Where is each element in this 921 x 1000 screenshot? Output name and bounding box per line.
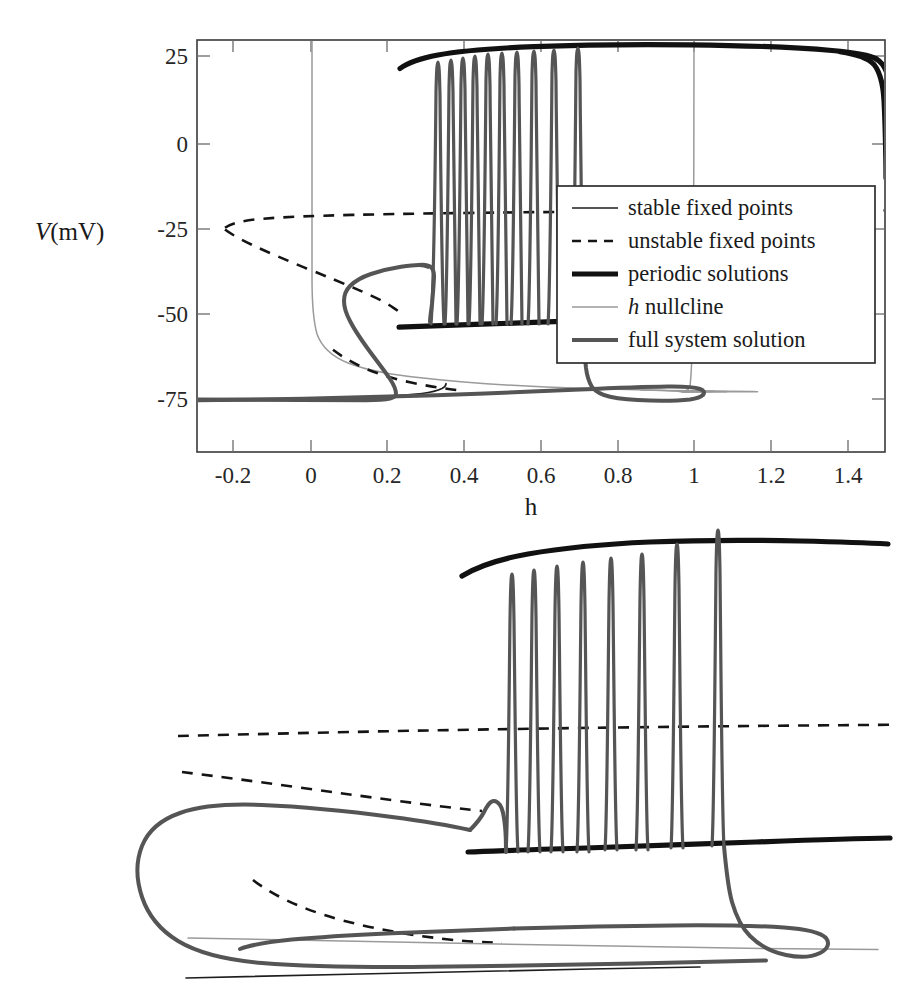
spike (469, 56, 480, 324)
spike (457, 58, 468, 324)
lower-burst-spike-train (506, 530, 724, 852)
spike (482, 54, 493, 324)
curve-periodic-max (400, 45, 876, 69)
y-tick-label: -75 (157, 387, 188, 412)
y-tick-labels: 25 0 -25 -50 -75 (157, 44, 188, 412)
y-tick-label: 0 (177, 132, 189, 157)
curve-periodic-right-fold (840, 52, 886, 178)
lower-curve-unstable-upper (178, 725, 890, 736)
spike (551, 566, 563, 852)
x-tick-label: 1.2 (757, 463, 786, 488)
legend-label: stable fixed points (628, 195, 793, 220)
spike (671, 544, 683, 848)
y-tick-label: 25 (165, 44, 188, 69)
bifurcation-figure: 25 0 -25 -50 -75 -0.2 0 0.2 0.4 0.6 0.8 … (0, 0, 921, 1000)
x-axis-title: h (525, 493, 538, 520)
spike (511, 52, 522, 324)
legend-label: periodic solutions (628, 261, 789, 286)
legend-label: h nullcline (628, 294, 724, 319)
spike (445, 60, 456, 324)
y-tick-label: -50 (157, 302, 188, 327)
x-tick-label: 0.4 (450, 463, 479, 488)
x-tick-label: 1.4 (834, 463, 863, 488)
legend-label-rest: nullcline (639, 294, 723, 319)
x-tick-label: 0.6 (527, 463, 556, 488)
spike (528, 51, 539, 324)
legend-label: unstable fixed points (628, 228, 815, 253)
lower-curve-periodic-min (468, 838, 890, 852)
y-tick-label: -25 (157, 217, 188, 242)
legend: stable fixed points unstable fixed point… (557, 186, 875, 363)
x-tick-label: -0.2 (215, 463, 251, 488)
y-axis-title-units: (mV) (50, 218, 104, 246)
spike (506, 574, 518, 852)
spike (636, 554, 648, 850)
lower-curve-full-system-descent (514, 846, 828, 957)
x-tick-labels: -0.2 0 0.2 0.4 0.6 0.8 1 1.2 1.4 (215, 463, 863, 488)
x-tick-label: 0 (305, 463, 317, 488)
spike (577, 562, 589, 852)
x-tick-label: 1 (688, 463, 700, 488)
spike (712, 530, 724, 846)
lower-curve-full-system-return (240, 929, 514, 949)
x-tick-label: 0.2 (373, 463, 402, 488)
spike (496, 53, 507, 324)
x-tick-label: 0.8 (604, 463, 633, 488)
legend-label-symbol: h (628, 294, 639, 319)
curve-unstable-lower (333, 350, 464, 391)
spike (528, 570, 540, 852)
legend-label: full system solution (628, 327, 806, 352)
curve-full-system-rest (198, 265, 428, 400)
spike (431, 62, 444, 324)
lower-curve-full-system-knee (470, 801, 506, 852)
lower-panel (138, 530, 891, 978)
y-axis-title: V(mV) (35, 218, 104, 246)
spike (605, 558, 617, 850)
